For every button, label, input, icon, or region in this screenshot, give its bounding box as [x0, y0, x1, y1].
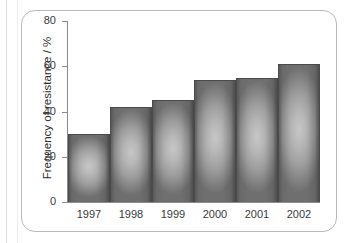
bar-series	[68, 21, 320, 202]
y-tick-label-80: 80	[44, 15, 56, 26]
x-tick-label-1999: 1999	[152, 208, 194, 220]
y-tick-mark-0	[62, 202, 68, 203]
x-axis-line	[67, 202, 320, 203]
x-tick-label-1998: 1998	[110, 208, 152, 220]
y-tick-label-40: 40	[44, 106, 56, 117]
chart-figure: Frequency of resistance / % 80 60 40 20 …	[0, 0, 345, 243]
bar-1999	[152, 100, 194, 202]
x-tick-label-2001: 2001	[236, 208, 278, 220]
y-tick-label-0: 0	[50, 196, 56, 207]
x-tick-label-2000: 2000	[194, 208, 236, 220]
y-tick-label-20: 20	[44, 151, 56, 162]
bar-2000	[194, 80, 236, 202]
bar-1997	[68, 134, 110, 202]
plot-area: Frequency of resistance / % 80 60 40 20 …	[0, 0, 345, 243]
y-tick-label-60: 60	[44, 60, 56, 71]
bar-1998	[110, 107, 152, 202]
x-tick-label-2002: 2002	[278, 208, 320, 220]
bar-2001	[236, 78, 278, 202]
x-tick-label-1997: 1997	[68, 208, 110, 220]
bar-2002	[278, 64, 320, 202]
